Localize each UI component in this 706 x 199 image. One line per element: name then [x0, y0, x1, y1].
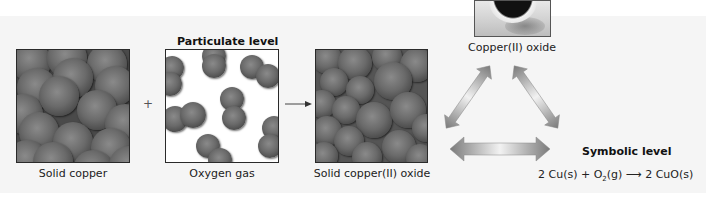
- oxygen-gas-label: Oxygen gas: [165, 167, 279, 180]
- right-diagonal-double-arrow-icon: [507, 61, 565, 134]
- plus-sign: +: [143, 97, 153, 111]
- solid-copper-oxide-label: Solid copper(II) oxide: [302, 167, 442, 180]
- equation-product: 2 CuO(s): [645, 168, 693, 181]
- solid-copper-label: Solid copper: [16, 167, 130, 180]
- copper-oxide-photo: [474, 0, 551, 37]
- left-diagonal-double-arrow-icon: [440, 61, 497, 134]
- particulate-level-heading: Particulate level: [177, 35, 278, 48]
- solid-copper-oxide-image: [315, 49, 428, 163]
- equation-arrow: ⟶: [626, 168, 642, 181]
- reaction-arrow-icon: [285, 100, 313, 108]
- copper-oxide-photo-label: Copper(II) oxide: [462, 41, 562, 54]
- levels-triangle: [440, 55, 580, 170]
- oxygen-gas-image: [165, 49, 279, 163]
- equation-reactants: 2 Cu(s) + O: [538, 168, 602, 181]
- bottom-horizontal-double-arrow-icon: [450, 137, 550, 161]
- symbolic-level-heading: Symbolic level: [582, 145, 672, 158]
- chemical-equation: 2 Cu(s) + O2(g) ⟶ 2 CuO(s): [538, 168, 693, 183]
- oxygen-state: (g): [607, 168, 623, 181]
- solid-copper-image: [16, 49, 130, 163]
